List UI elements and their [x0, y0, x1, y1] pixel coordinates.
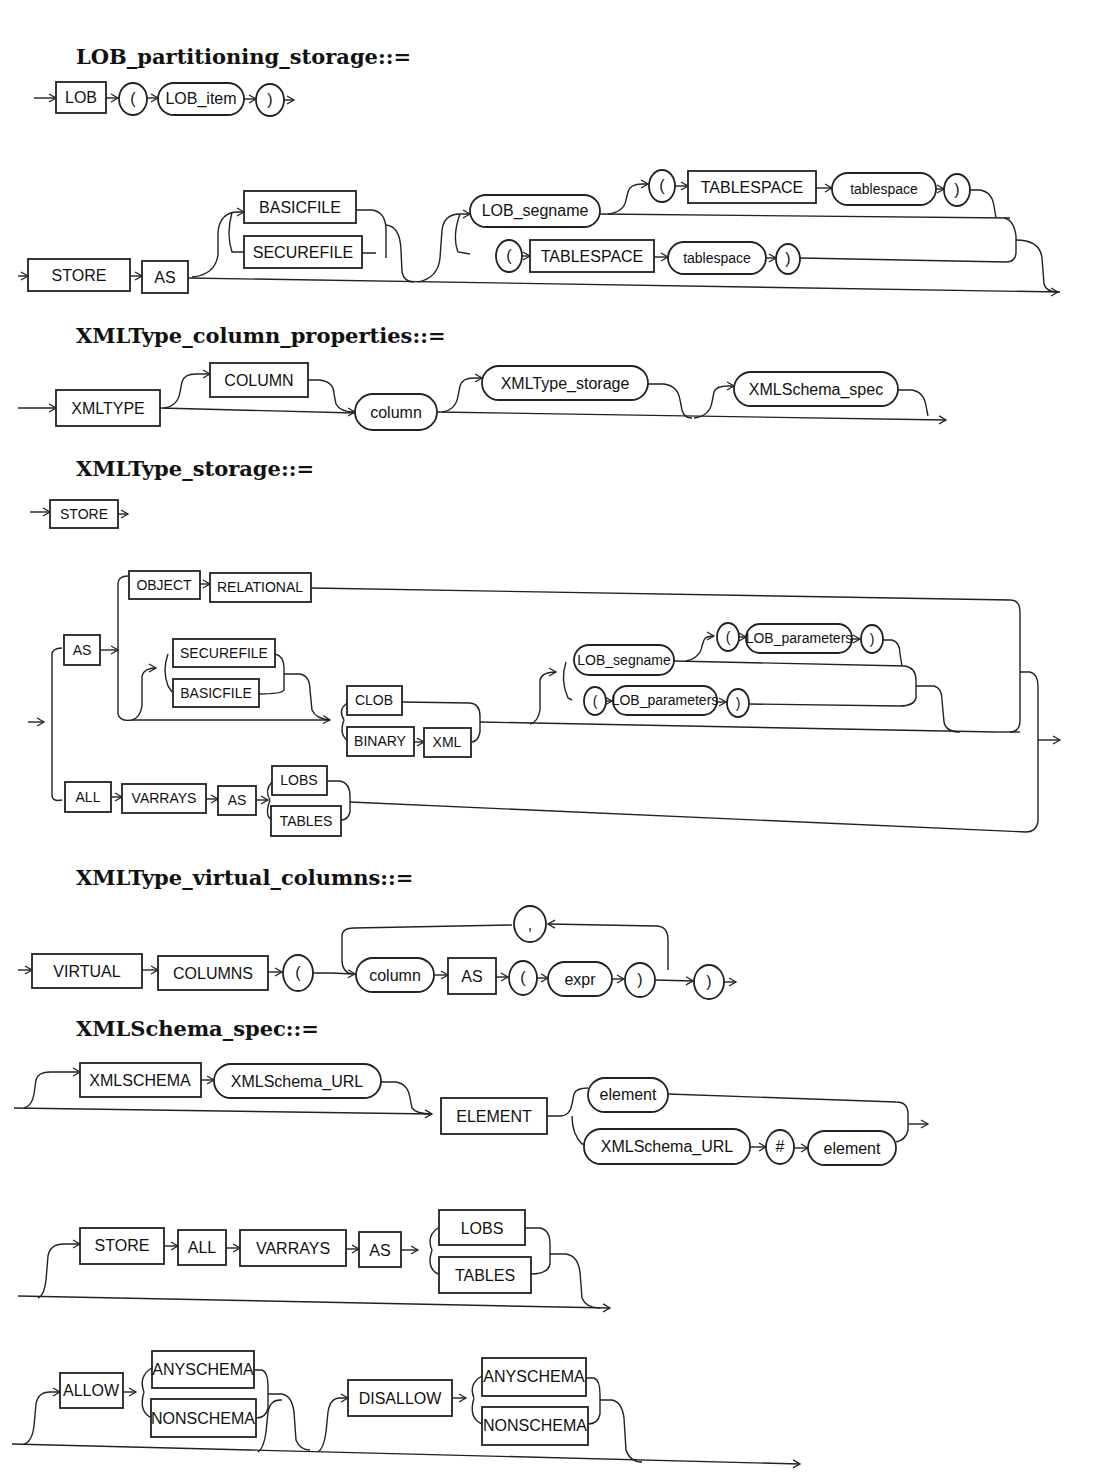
- nonterminal-lob-segname: LOB_segname: [482, 202, 589, 220]
- keyword-nonschema: NONSCHEMA: [483, 1417, 587, 1434]
- nonterminal-element: element: [824, 1140, 881, 1157]
- branch-line: [430, 1228, 438, 1274]
- keyword-virtual: VIRTUAL: [53, 963, 120, 980]
- nonterminal-lob-parameters: LOB_parameters: [612, 692, 719, 708]
- section-title: XMLType_virtual_columns::=: [76, 865, 413, 890]
- symbol-rparen: ): [706, 973, 711, 990]
- section-title: XMLType_column_properties::=: [76, 323, 446, 348]
- keyword-as: AS: [369, 1242, 390, 1259]
- branch-line: [381, 1082, 432, 1114]
- nonterminal-xmlschema-url: XMLSchema_URL: [231, 1073, 364, 1091]
- symbol-hash: #: [776, 1138, 785, 1155]
- keyword-basicfile: BASICFILE: [259, 199, 341, 216]
- branch-line: [686, 636, 714, 661]
- nonterminal-xmltype-storage: XMLType_storage: [501, 375, 630, 393]
- branch-line: [192, 212, 244, 277]
- branch-line: [550, 1254, 600, 1308]
- keyword-basicfile: BASICFILE: [180, 685, 252, 701]
- branch-line: [480, 722, 996, 732]
- branch-line: [165, 654, 172, 692]
- branch-line: [472, 1376, 482, 1424]
- entry-arrow-icon: [18, 1296, 610, 1308]
- symbol-lparen: (: [593, 693, 598, 709]
- keyword-clob: CLOB: [355, 692, 393, 708]
- branch-line: [916, 686, 960, 732]
- keyword-lob: LOB: [65, 89, 97, 106]
- symbol-lparen: (: [506, 247, 512, 264]
- branch-line: [694, 386, 734, 418]
- xmltype-storage-section: XMLType_storage::= STORE AS OBJECT RELAT…: [28, 456, 1060, 836]
- main-line: [188, 278, 1060, 292]
- branch-line: [229, 212, 244, 252]
- branch-line: [318, 1398, 348, 1452]
- symbol-rparen: ): [785, 250, 790, 267]
- nonterminal-lob-parameters: LOB_parameters: [746, 630, 853, 646]
- branch-line: [800, 218, 1016, 262]
- keyword-anyschema: ANYSCHEMA: [483, 1368, 585, 1385]
- branch-line: [648, 384, 692, 418]
- branch-line: [38, 1244, 80, 1298]
- keyword-tablespace: TABLESPACE: [541, 248, 644, 265]
- keyword-tables: TABLES: [280, 813, 333, 829]
- branch-line: [258, 1400, 282, 1452]
- keyword-as: AS: [73, 642, 92, 658]
- xmltype-column-properties-section: XMLType_column_properties::= XMLTYPE COL…: [18, 323, 946, 430]
- branch-line: [1020, 672, 1038, 832]
- branch-line: [52, 648, 62, 800]
- nonterminal-tablespace: tablespace: [850, 181, 918, 197]
- main-line: [160, 408, 355, 413]
- keyword-lobs: LOBS: [280, 772, 317, 788]
- exit-arrow-icon: [250, 1450, 800, 1464]
- section-title: XMLSchema_spec::=: [76, 1016, 319, 1041]
- keyword-as: AS: [228, 792, 247, 808]
- symbol-rparen: ): [870, 631, 875, 647]
- branch-line: [530, 672, 556, 724]
- symbol-rparen: ): [637, 971, 642, 988]
- entry-arrow-icon: [12, 1444, 250, 1450]
- keyword-binary: BINARY: [354, 733, 407, 749]
- section-title: XMLType_storage::=: [76, 456, 314, 481]
- symbol-lparen: (: [295, 964, 301, 981]
- keyword-lobs: LOBS: [461, 1220, 504, 1237]
- branch-line: [164, 374, 210, 408]
- exit-arrow-icon: [437, 412, 946, 420]
- branch-line: [898, 390, 928, 416]
- branch-line: [600, 214, 1010, 218]
- keyword-varrays: VARRAYS: [256, 1240, 330, 1257]
- exit-arrow-icon: [1016, 240, 1058, 292]
- branch-line: [750, 666, 916, 706]
- keyword-as: AS: [154, 269, 175, 286]
- keyword-xmlschema: XMLSCHEMA: [89, 1072, 191, 1089]
- symbol-lparen: (: [520, 969, 526, 986]
- keyword-xmltype: XMLTYPE: [71, 400, 145, 417]
- section-title: LOB_partitioning_storage::=: [76, 44, 411, 69]
- syntax-diagram-canvas: LOB_partitioning_storage::= LOB ( LOB_it…: [0, 0, 1094, 1484]
- keyword-varrays: VARRAYS: [132, 790, 197, 806]
- symbol-comma: ,: [528, 916, 532, 933]
- keyword-columns: COLUMNS: [173, 965, 253, 982]
- nonterminal-column: column: [370, 404, 422, 421]
- branch-line: [284, 674, 330, 720]
- branch-line: [600, 1400, 642, 1462]
- keyword-securefile: SECUREFILE: [253, 244, 353, 261]
- nonterminal-element: element: [600, 1086, 657, 1103]
- branch-line: [442, 378, 482, 412]
- keyword-all: ALL: [76, 789, 101, 805]
- branch-line: [308, 380, 355, 412]
- lob-partitioning-storage-section: LOB_partitioning_storage::= LOB ( LOB_it…: [18, 44, 1060, 293]
- keyword-all: ALL: [188, 1239, 217, 1256]
- xmltype-virtual-columns-section: XMLType_virtual_columns::= VIRTUAL COLUM…: [18, 865, 736, 999]
- keyword-anyschema: ANYSCHEMA: [152, 1361, 254, 1378]
- nonterminal-tablespace: tablespace: [683, 250, 751, 266]
- nonterminal-column: column: [369, 967, 421, 984]
- branch-line: [268, 1394, 310, 1450]
- branch-line: [132, 668, 156, 720]
- symbol-rparen: ): [954, 181, 959, 198]
- keyword-object: OBJECT: [136, 577, 192, 593]
- nonterminal-xmlschema-url: XMLSchema_URL: [601, 1138, 734, 1156]
- keyword-tablespace: TABLESPACE: [701, 179, 804, 196]
- nonterminal-lob-item: LOB_item: [165, 90, 236, 108]
- branch-line: [608, 184, 648, 214]
- keyword-xml: XML: [433, 734, 462, 750]
- branch-line: [563, 662, 572, 700]
